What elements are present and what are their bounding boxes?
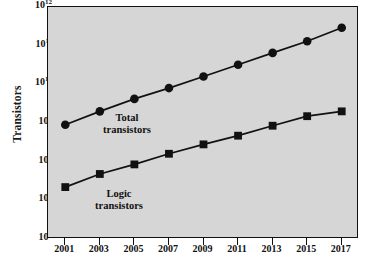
y-axis-tick-label: 106 bbox=[6, 232, 52, 242]
x-axis-tick-mark bbox=[341, 238, 342, 245]
data-point-square bbox=[269, 122, 277, 130]
data-point-circle bbox=[234, 61, 243, 70]
data-point-square bbox=[303, 112, 311, 120]
series-label-logic-transistors: Logic transistors bbox=[84, 188, 154, 211]
y-axis-tick-label: 1012 bbox=[6, 0, 52, 10]
data-point-square bbox=[61, 183, 69, 191]
series-label-total-line1: Total bbox=[116, 112, 139, 123]
x-axis-tick-mark bbox=[168, 238, 169, 245]
y-axis-tick-label: 109 bbox=[6, 116, 52, 126]
data-point-square bbox=[96, 170, 104, 178]
x-axis-tick-mark bbox=[203, 238, 204, 245]
data-point-square bbox=[234, 132, 242, 140]
transistor-scaling-chart: Transistors 101210111010109108107106 200… bbox=[0, 0, 365, 269]
x-axis-tick-mark bbox=[272, 238, 273, 245]
x-axis-tick-mark bbox=[306, 238, 307, 245]
data-point-circle bbox=[130, 95, 139, 104]
series-label-logic-line2: transistors bbox=[95, 200, 143, 211]
data-point-square bbox=[338, 107, 346, 115]
data-point-square bbox=[130, 161, 138, 169]
x-axis-tick-mark bbox=[237, 238, 238, 245]
x-axis-tick-mark bbox=[64, 238, 65, 245]
data-point-circle bbox=[165, 84, 174, 93]
x-axis-tick-mark bbox=[99, 238, 100, 245]
data-point-circle bbox=[61, 120, 70, 129]
series-label-total-line2: transistors bbox=[103, 124, 151, 135]
x-axis-tick-mark bbox=[133, 238, 134, 245]
data-point-square bbox=[200, 140, 208, 148]
y-axis-tick-label: 1011 bbox=[6, 39, 52, 49]
data-point-circle bbox=[199, 72, 208, 81]
y-axis-tick-label: 108 bbox=[6, 155, 52, 165]
series-label-logic-line1: Logic bbox=[106, 188, 131, 199]
data-point-circle bbox=[337, 23, 346, 32]
series-label-total-transistors: Total transistors bbox=[92, 112, 162, 135]
data-point-square bbox=[165, 150, 173, 158]
y-axis-tick-label: 1010 bbox=[6, 77, 52, 87]
data-point-circle bbox=[268, 49, 277, 58]
y-axis-tick-label: 107 bbox=[6, 193, 52, 203]
data-point-circle bbox=[303, 37, 312, 46]
